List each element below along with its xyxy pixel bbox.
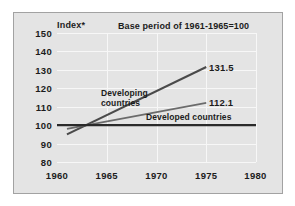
plot-area: 150 140 130 120 110 100 90 80 1960 1965 … xyxy=(57,33,256,162)
chart-panel: Index* Base period of 1961-1965=100 150 … xyxy=(13,12,283,194)
value-label-developing: 131.5 xyxy=(209,62,234,73)
gridline-horizontal xyxy=(57,162,256,163)
series-label-developing-line1: Developing xyxy=(101,88,148,98)
y-tick-label: 150 xyxy=(35,28,52,39)
value-label-developed: 112.1 xyxy=(209,97,233,108)
series-label-developed: Developed countries xyxy=(146,112,232,122)
y-tick-label: 110 xyxy=(36,101,52,112)
y-tick-label: 120 xyxy=(35,83,52,94)
y-tick-label: 130 xyxy=(35,64,52,75)
chart-title: Base period of 1961-1965=100 xyxy=(118,21,249,31)
series-label-developing: Developing countries xyxy=(101,88,148,108)
y-tick-label: 80 xyxy=(41,157,52,168)
y-tick-label: 100 xyxy=(35,120,52,131)
series-label-developing-line2: countries xyxy=(101,98,148,108)
y-axis-title: Index* xyxy=(57,20,85,30)
x-tick-label: 1980 xyxy=(244,170,266,181)
y-tick-label: 90 xyxy=(41,138,52,149)
x-tick-label: 1960 xyxy=(46,170,68,181)
x-tick-label: 1975 xyxy=(195,170,217,181)
y-tick-label: 140 xyxy=(35,46,52,57)
x-tick-label: 1970 xyxy=(145,170,167,181)
x-tick-label: 1965 xyxy=(96,170,118,181)
